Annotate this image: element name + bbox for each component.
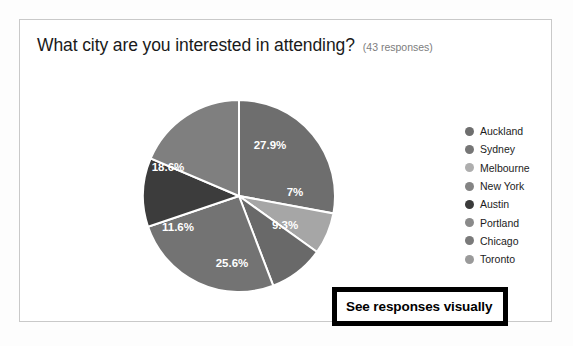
legend-swatch-icon bbox=[465, 236, 474, 245]
legend-item[interactable]: Portland bbox=[465, 213, 565, 231]
pie-slice-label: 27.9% bbox=[254, 139, 287, 151]
legend-item-label: Sydney bbox=[480, 143, 515, 155]
pie-chart-svg: 27.9%7%9.3%25.6%11.6%18.6% bbox=[140, 97, 338, 295]
pie-slice-label: 9.3% bbox=[272, 219, 298, 231]
legend-item-label: New York bbox=[480, 180, 524, 192]
response-summary-card: What city are you interested in attendin… bbox=[19, 19, 552, 322]
legend-item-label: Auckland bbox=[480, 125, 523, 137]
legend-swatch-icon bbox=[465, 163, 474, 172]
legend-item-label: Austin bbox=[480, 198, 509, 210]
annotation-callout-label: See responses visually bbox=[337, 299, 492, 314]
question-header: What city are you interested in attendin… bbox=[37, 35, 433, 56]
legend-swatch-icon bbox=[465, 200, 474, 209]
legend-item[interactable]: Melbourne bbox=[465, 159, 565, 177]
pie-slice-label: 11.6% bbox=[162, 221, 194, 233]
legend-item[interactable]: New York bbox=[465, 177, 565, 195]
pie-slice-label: 18.6% bbox=[152, 161, 185, 173]
page-title: What city are you interested in attendin… bbox=[37, 35, 355, 56]
legend-item[interactable]: Auckland bbox=[465, 122, 565, 140]
legend-swatch-icon bbox=[465, 127, 474, 136]
pie-slice-label: 7% bbox=[287, 186, 304, 198]
page-background: What city are you interested in attendin… bbox=[0, 0, 573, 346]
legend-item[interactable]: Toronto bbox=[465, 250, 565, 268]
legend-swatch-icon bbox=[465, 218, 474, 227]
legend-item-label: Toronto bbox=[480, 253, 515, 265]
annotation-callout: See responses visually bbox=[332, 287, 508, 326]
legend-item[interactable]: Austin bbox=[465, 195, 565, 213]
legend-swatch-icon bbox=[465, 145, 474, 154]
legend-item-label: Melbourne bbox=[480, 162, 530, 174]
chart-area: 27.9%7%9.3%25.6%11.6%18.6% Auckland Sydn… bbox=[20, 70, 553, 323]
response-count-label: (43 responses) bbox=[363, 41, 433, 53]
legend-swatch-icon bbox=[465, 255, 474, 264]
legend-item[interactable]: Chicago bbox=[465, 232, 565, 250]
legend-swatch-icon bbox=[465, 182, 474, 191]
chart-legend: Auckland Sydney Melbourne New York Austi… bbox=[465, 122, 565, 268]
pie-slice-label: 25.6% bbox=[216, 257, 249, 269]
legend-item-label: Portland bbox=[480, 217, 519, 229]
pie-chart: 27.9%7%9.3%25.6%11.6%18.6% bbox=[140, 97, 338, 295]
legend-item-label: Chicago bbox=[480, 235, 519, 247]
legend-item[interactable]: Sydney bbox=[465, 140, 565, 158]
